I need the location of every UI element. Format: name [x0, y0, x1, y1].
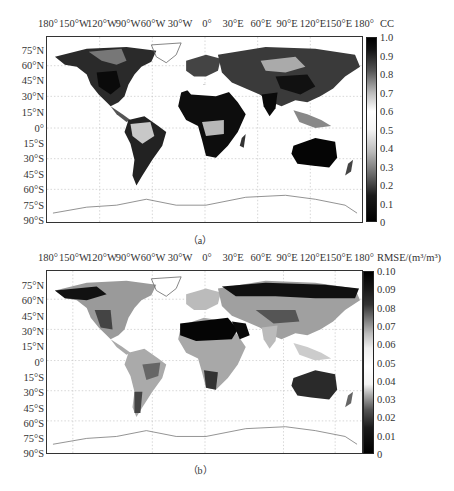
colorbar-tick: 0: [377, 449, 382, 460]
x-tick: 150°W: [59, 252, 89, 263]
x-tick: 60°E: [250, 252, 271, 263]
y-tick: 90°S: [23, 448, 44, 459]
y-tick: 45°S: [23, 403, 44, 414]
y-tick: 60°S: [23, 418, 44, 429]
x-tick: 90°E: [276, 252, 297, 263]
colorbar-tick: 0.05: [377, 357, 395, 368]
y-tick: 0°: [35, 357, 44, 368]
colorbar-rmse: [363, 271, 374, 454]
colorbar-tick: 0.09: [377, 284, 395, 295]
colorbar-tick: 0.02: [377, 412, 395, 423]
x-tick: 0°: [202, 252, 211, 263]
panel-caption-b: （b）: [180, 462, 220, 477]
x-tick: 120°E: [300, 252, 326, 263]
x-tick: 30°W: [168, 252, 193, 263]
x-tick: 180°: [354, 252, 374, 263]
y-tick: 30°S: [23, 387, 44, 398]
panel-b: 180° 150°W 120°W 90°W 60°W 30°W 0° 30°E …: [0, 0, 454, 491]
y-tick: 15°N: [22, 341, 44, 352]
y-axis-ticks: 75°N 60°N 45°N 30°N 15°N 0° 15°S 30°S 45…: [0, 0, 44, 491]
y-tick: 45°N: [22, 311, 44, 322]
x-tick: 30°E: [222, 252, 243, 263]
colorbar-tick: 0.06: [377, 339, 395, 350]
colorbar-tick: 0.10: [377, 266, 395, 277]
x-tick: 60°W: [141, 252, 166, 263]
colorbar-tick: 0.07: [377, 320, 395, 331]
colorbar-tick: 0.08: [377, 302, 395, 313]
y-tick: 15°S: [23, 372, 44, 383]
x-tick: 150°E: [326, 252, 352, 263]
x-tick: 120°W: [87, 252, 117, 263]
colorbar-tick: 0.01: [377, 430, 395, 441]
y-tick: 75°N: [22, 280, 44, 291]
colorbar-tick: 0.04: [377, 375, 395, 386]
colorbar-tick: 0.03: [377, 394, 395, 405]
colorbar-title: RMSE/(m³/m³): [377, 252, 441, 263]
map-b: [46, 270, 363, 454]
x-tick: 90°W: [116, 252, 141, 263]
world-map-rmse: [47, 271, 362, 453]
y-tick: 60°N: [22, 295, 44, 306]
y-tick: 30°N: [22, 326, 44, 337]
y-tick: 75°S: [23, 433, 44, 444]
